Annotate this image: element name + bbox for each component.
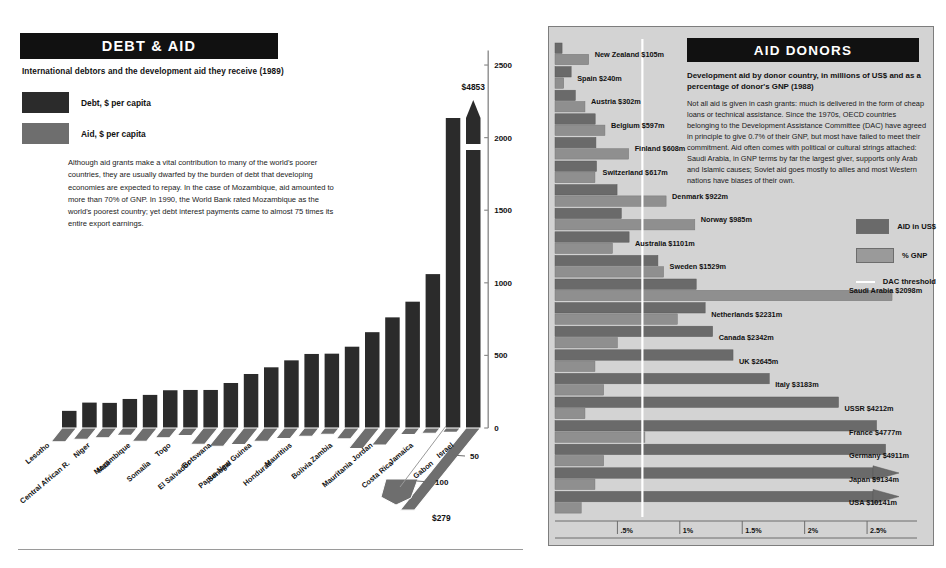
legend-label-aid-usd: AID in US$ (897, 222, 936, 231)
svg-text:1000: 1000 (494, 279, 512, 288)
svg-text:50: 50 (470, 452, 479, 461)
aid-donors-panel: AID DONORS Development aid by donor coun… (548, 26, 934, 546)
legend-label-gnp: % GNP (902, 251, 927, 260)
svg-text:Zambia: Zambia (308, 440, 334, 464)
svg-text:1.5%: 1.5% (745, 526, 762, 535)
svg-text:.5%: .5% (620, 526, 633, 535)
legend-item-aid-usd: AID in US$ (856, 219, 936, 234)
svg-text:Denmark $922m: Denmark $922m (672, 192, 728, 201)
svg-text:1500: 1500 (494, 206, 512, 215)
svg-text:UK $2645m: UK $2645m (739, 357, 779, 366)
svg-text:Italy $3183m: Italy $3183m (775, 380, 819, 389)
svg-text:Jamaica: Jamaica (387, 440, 416, 466)
svg-text:New Zealand $105m: New Zealand $105m (595, 50, 665, 59)
svg-text:USSR $4212m: USSR $4212m (845, 404, 895, 413)
svg-text:USA $10141m: USA $10141m (849, 498, 898, 507)
svg-text:500: 500 (494, 351, 508, 360)
svg-text:Niger: Niger (71, 441, 91, 460)
svg-text:Germany $4911m: Germany $4911m (849, 451, 910, 460)
svg-text:Mauritania: Mauritania (320, 458, 355, 489)
legend-item-gnp: % GNP (856, 248, 936, 263)
svg-text:France $4777m: France $4777m (849, 428, 902, 437)
aid-donors-legend: AID in US$ % GNP DAC threshold (856, 219, 936, 300)
svg-text:Switzerland $617m: Switzerland $617m (603, 168, 669, 177)
svg-text:Spain $240m: Spain $240m (577, 74, 622, 83)
legend-label-dac: DAC threshold (883, 277, 936, 286)
dac-threshold-line-swatch (856, 281, 875, 283)
svg-text:Belgium $597m: Belgium $597m (611, 121, 665, 130)
gnp-swatch (856, 248, 894, 263)
debt-bars-group (62, 100, 482, 428)
svg-text:Central African R.: Central African R. (18, 459, 71, 506)
svg-text:Austria $302m: Austria $302m (591, 97, 641, 106)
svg-text:Mauritius: Mauritius (263, 441, 294, 469)
svg-text:Canada $2342m: Canada $2342m (719, 333, 775, 342)
debt-aid-chart-svg: 05001000150020002500 50100 LesothoCentra… (0, 0, 540, 568)
svg-text:2000: 2000 (494, 134, 512, 143)
svg-text:Netherlands $2231m: Netherlands $2231m (711, 310, 782, 319)
left-panel-divider (18, 549, 523, 550)
aid-usd-swatch (856, 219, 889, 234)
infographic-page: DEBT & AID International debtors and the… (0, 0, 946, 568)
svg-text:100: 100 (435, 478, 449, 487)
debt-aid-panel: DEBT & AID International debtors and the… (0, 0, 540, 568)
svg-text:Finland $608m: Finland $608m (635, 144, 686, 153)
svg-text:2.5%: 2.5% (870, 526, 887, 535)
debt-aid-chart: 05001000150020002500 50100 LesothoCentra… (0, 0, 540, 568)
svg-text:Japan $9134m: Japan $9134m (849, 475, 899, 484)
svg-text:Australia $1101m: Australia $1101m (635, 239, 695, 248)
svg-text:Sweden $1529m: Sweden $1529m (670, 262, 727, 271)
svg-text:$4853: $4853 (462, 82, 486, 92)
svg-text:2%: 2% (808, 526, 819, 535)
svg-text:2500: 2500 (494, 61, 512, 70)
svg-text:$279: $279 (432, 513, 451, 523)
svg-text:Norway $985m: Norway $985m (701, 215, 753, 224)
svg-text:Lesotho: Lesotho (23, 440, 51, 466)
svg-text:Togo: Togo (153, 440, 173, 458)
legend-item-dac: DAC threshold (856, 277, 936, 286)
svg-text:Mozambique: Mozambique (92, 441, 132, 477)
svg-text:1%: 1% (683, 526, 694, 535)
percent-axis: .5%1%1.5%2%2.5% (555, 521, 917, 538)
svg-text:0: 0 (494, 424, 499, 433)
svg-text:Somalia: Somalia (125, 458, 153, 484)
debt-value-axis: 05001000150020002500 (484, 51, 512, 433)
